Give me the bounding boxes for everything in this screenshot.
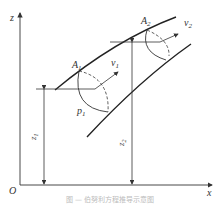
- section-2-front-arc: [146, 30, 166, 60]
- figure-caption: 图 — 伯努利方程推导示意图: [66, 195, 154, 204]
- velocity-2-arrow: [160, 34, 178, 42]
- velocity-2-label: v2: [184, 17, 192, 30]
- lower-streamline: [87, 44, 191, 137]
- origin-label: O: [9, 185, 16, 196]
- pressure-1-label: p1: [76, 105, 86, 118]
- section-1-front-arc: [78, 71, 108, 112]
- section-2: [110, 30, 178, 184]
- upper-streamline: [55, 17, 176, 90]
- section-1-back-arc: [79, 71, 108, 112]
- velocity-1-label: v1: [111, 57, 119, 70]
- axes: [20, 13, 212, 185]
- section-1: [36, 71, 118, 184]
- height-2-label: z2: [116, 139, 127, 147]
- diagram-svg: O x z A1 v1 p1 z1 A2 v2 z2 图 — 伯努利方程推导示意…: [0, 0, 221, 205]
- area-1-label: A1: [71, 59, 82, 72]
- height-1-label: z1: [28, 133, 39, 141]
- area-2-label: A2: [140, 15, 151, 28]
- z-axis-label: z: [9, 12, 14, 23]
- section-2-back-arc: [147, 30, 169, 56]
- streamtube-diagram: O x z A1 v1 p1 z1 A2 v2 z2 图 — 伯努利方程推导示意…: [0, 0, 221, 205]
- x-axis-label: x: [206, 187, 212, 198]
